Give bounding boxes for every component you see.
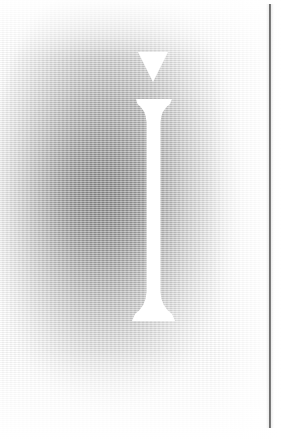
scanned-page — [0, 0, 281, 440]
vignette-core-shadow — [26, 120, 156, 270]
vertical-margin-rule — [269, 4, 271, 428]
